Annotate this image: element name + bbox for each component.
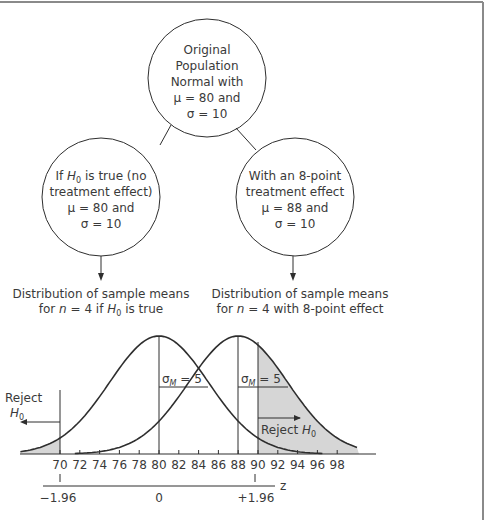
left-node-line1: If H0 is true (no <box>56 169 147 185</box>
top-node-text: Original Population Normal with μ = 80 a… <box>171 43 244 121</box>
x-tick-label: 82 <box>171 458 186 472</box>
reject-left-h0: H0 <box>10 406 24 422</box>
arrow-left-icon <box>20 419 60 425</box>
x-tick-label: 90 <box>250 458 265 472</box>
x-tick-label: 80 <box>151 458 166 472</box>
z-axis-label: z <box>280 479 286 493</box>
right-node-line1: With an 8-point <box>249 169 342 183</box>
right-node-text: With an 8-point treatment effect μ = 88 … <box>246 169 345 231</box>
left-node-line3: μ = 80 and <box>68 201 135 215</box>
right-node-line3: μ = 88 and <box>262 201 329 215</box>
x-tick-label: 72 <box>72 458 87 472</box>
connector-left <box>160 125 171 145</box>
connector-right <box>236 128 256 150</box>
right-node-line2: treatment effect <box>246 185 345 199</box>
left-caption-line1: Distribution of sample means <box>13 287 190 301</box>
top-node-line: Normal with <box>171 75 244 89</box>
arrow-down-icon <box>290 256 296 281</box>
top-node-line: σ = 10 <box>187 107 228 121</box>
left-caption: Distribution of sample means for n = 4 i… <box>13 287 190 318</box>
right-caption-line1: Distribution of sample means <box>212 287 389 301</box>
left-node-line4: σ = 10 <box>81 217 122 231</box>
left-rejection-region <box>20 438 60 454</box>
z-label-right: +1.96 <box>238 491 275 505</box>
reject-left-word: Reject <box>5 391 42 405</box>
z-label-center: 0 <box>155 491 163 505</box>
x-tick-label: 92 <box>270 458 285 472</box>
z-label-left: −1.96 <box>40 491 77 505</box>
x-tick-label: 88 <box>231 458 246 472</box>
arrow-down-icon <box>98 256 104 281</box>
x-tick-label: 74 <box>92 458 107 472</box>
left-node-line2: treatment effect) <box>49 185 152 199</box>
hypothesis-test-diagram: Original Population Normal with μ = 80 a… <box>0 0 491 520</box>
x-tick-label: 76 <box>112 458 127 472</box>
sigma-m-label-right: σM = 5 <box>241 372 281 388</box>
right-caption-line2: for n = 4 with 8-point effect <box>216 302 383 316</box>
right-caption: Distribution of sample means for n = 4 w… <box>212 287 389 316</box>
reject-right-label: Reject H0 <box>261 423 316 439</box>
right-node-line4: σ = 10 <box>275 217 316 231</box>
left-node-text: If H0 is true (no treatment effect) μ = … <box>49 169 152 231</box>
x-tick-label: 98 <box>330 458 345 472</box>
left-caption-line2: for n = 4 if H0 is true <box>39 302 163 318</box>
top-node-line: μ = 80 and <box>174 91 241 105</box>
x-tick-label: 84 <box>191 458 206 472</box>
x-tick-label: 86 <box>211 458 226 472</box>
top-node-line: Original <box>184 43 231 57</box>
normal-curves-graph: σM = 5 σM = 5 Reject H0 Reject H0 707274… <box>5 336 376 505</box>
top-node-line: Population <box>175 59 238 73</box>
x-tick-label: 70 <box>52 458 67 472</box>
x-tick-label: 78 <box>132 458 147 472</box>
x-tick-label: 96 <box>310 458 325 472</box>
sigma-m-label-left: σM = 5 <box>162 372 202 388</box>
x-tick-label: 94 <box>290 458 305 472</box>
